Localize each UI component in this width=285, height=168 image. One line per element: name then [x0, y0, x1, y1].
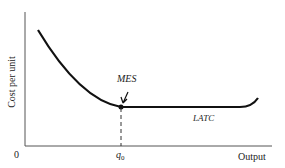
q-label: q0 — [116, 149, 125, 162]
origin-label: 0 — [14, 149, 19, 160]
mes-arrow — [121, 92, 128, 103]
mes-label: MES — [116, 73, 136, 84]
x-axis-label: Output — [238, 151, 266, 162]
latc-curve — [38, 30, 258, 107]
latc-diagram: Cost per unit 0 MES LATC q0 Output — [0, 0, 285, 168]
latc-label: LATC — [192, 113, 215, 123]
y-axis-label: Cost per unit — [6, 56, 17, 108]
